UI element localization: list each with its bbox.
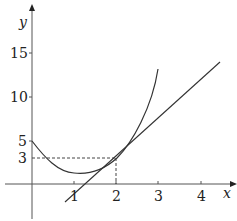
y-tick-5: 5 — [18, 134, 27, 148]
x-tick-4: 4 — [197, 189, 206, 203]
x-tick-1: 1 — [70, 189, 79, 203]
x-axis-label: x — [223, 186, 231, 200]
x-tick-2: 2 — [112, 189, 121, 203]
x-axis-arrow-icon — [230, 181, 237, 187]
y-tick-10: 10 — [10, 90, 28, 104]
y-axis-label: y — [19, 15, 27, 29]
x-tick-3: 3 — [154, 189, 163, 203]
y-tick-15: 15 — [10, 46, 28, 60]
axis-ticks — [29, 53, 201, 184]
y-tick-3: 3 — [18, 151, 27, 165]
tangent-line — [65, 62, 220, 202]
y-axis-arrow-icon — [29, 4, 35, 11]
